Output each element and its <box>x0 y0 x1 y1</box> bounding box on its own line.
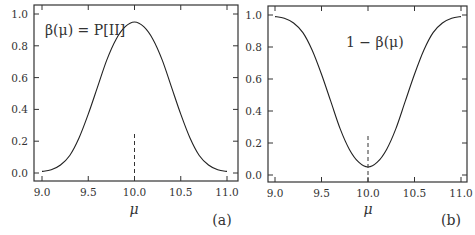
x-tick-label: 10.0 <box>356 187 379 199</box>
x-tick-label: 9.5 <box>313 187 330 199</box>
y-tick-label: 0.4 <box>245 105 262 117</box>
y-tick-label: 0.6 <box>11 72 28 84</box>
x-tick-label: 11.0 <box>215 186 238 198</box>
x-tick-label: 10.5 <box>403 187 426 199</box>
x-axis-label: μ <box>129 201 138 217</box>
curve-annotation: β(μ) = P[II] <box>45 22 125 38</box>
panel-label: (b) <box>441 212 461 228</box>
x-tick-label: 9.5 <box>80 186 97 198</box>
x-tick-label: 10.5 <box>169 186 192 198</box>
y-tick-label: 0.2 <box>245 137 262 149</box>
panel-a: 9.09.510.010.511.00.00.20.40.60.81.0β(μ)… <box>11 5 238 228</box>
panel-label: (a) <box>212 212 231 228</box>
y-tick-label: 0.8 <box>245 41 262 53</box>
plot-frame <box>268 6 467 182</box>
y-tick-label: 0.0 <box>245 169 262 181</box>
y-tick-label: 0.0 <box>11 167 28 179</box>
curve-annotation: 1 − β(μ) <box>346 34 404 50</box>
x-tick-label: 11.0 <box>449 187 472 199</box>
y-tick-label: 0.6 <box>245 73 262 85</box>
y-tick-label: 0.2 <box>11 135 28 147</box>
x-tick-label: 9.0 <box>267 187 284 199</box>
panel-b: 9.09.510.010.511.00.00.20.40.60.81.01 − … <box>245 6 472 228</box>
x-axis-label: μ <box>363 201 372 217</box>
x-tick-label: 9.0 <box>34 186 51 198</box>
y-tick-label: 1.0 <box>11 8 28 20</box>
y-tick-label: 0.4 <box>11 103 28 115</box>
figure: 9.09.510.010.511.00.00.20.40.60.81.0β(μ)… <box>0 0 475 235</box>
y-tick-label: 0.8 <box>11 40 28 52</box>
y-tick-label: 1.0 <box>245 9 262 21</box>
x-tick-label: 10.0 <box>123 186 146 198</box>
